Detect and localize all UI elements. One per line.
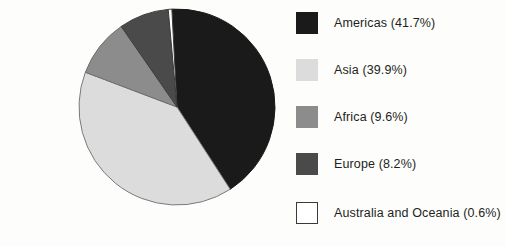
legend-swatch-americas bbox=[296, 12, 318, 34]
legend-item-africa[interactable]: Africa (9.6%) bbox=[296, 104, 408, 130]
legend-label-europe: Europe (8.2%) bbox=[334, 157, 416, 171]
legend-item-australia-and-oceania[interactable]: Australia and Oceania (0.6%) bbox=[296, 200, 501, 226]
pie-slice-group bbox=[79, 9, 275, 205]
pie-chart-figure: Americas (41.7%) Asia (39.9%) Africa (9.… bbox=[0, 0, 506, 246]
legend-item-americas[interactable]: Americas (41.7%) bbox=[296, 10, 435, 36]
legend-label-asia: Asia (39.9%) bbox=[334, 63, 407, 77]
legend-swatch-europe bbox=[296, 153, 318, 175]
chart-legend: Americas (41.7%) Asia (39.9%) Africa (9.… bbox=[296, 4, 502, 242]
pie-svg bbox=[76, 6, 278, 208]
legend-swatch-asia bbox=[296, 59, 318, 81]
legend-swatch-australia-and-oceania bbox=[296, 202, 318, 224]
legend-label-africa: Africa (9.6%) bbox=[334, 110, 408, 124]
legend-item-europe[interactable]: Europe (8.2%) bbox=[296, 151, 416, 177]
legend-item-asia[interactable]: Asia (39.9%) bbox=[296, 57, 407, 83]
legend-label-americas: Americas (41.7%) bbox=[334, 16, 435, 30]
legend-label-australia-and-oceania: Australia and Oceania (0.6%) bbox=[334, 206, 501, 220]
pie-chart-graphic bbox=[76, 6, 278, 208]
legend-swatch-africa bbox=[296, 106, 318, 128]
